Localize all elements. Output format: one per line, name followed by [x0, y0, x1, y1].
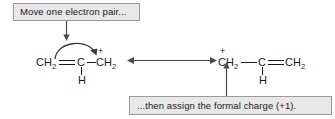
double-bond-lower-right: [268, 64, 284, 65]
chemistry-resonance-figure: Move one electron pair... CH2 C + CH2 H …: [0, 0, 335, 119]
leader-arrow-bottom-up-icon: [222, 62, 231, 97]
callout-top-text: Move one electron pair...: [20, 7, 127, 17]
formal-charge-plus-left: +: [98, 47, 103, 56]
double-bond-lower-left: [59, 64, 75, 65]
double-bond-upper-right: [268, 60, 284, 61]
double-bond-upper-left: [59, 60, 75, 61]
atom-label-terminal-ch2-right: CH2: [285, 57, 305, 70]
atom-label-terminal-ch2-left: CH2: [36, 57, 56, 70]
structure-right: + CH2 C CH2 H: [216, 42, 326, 87]
single-bond-left: [87, 62, 96, 63]
single-bond-right: [241, 62, 257, 63]
atom-label-cation-ch2-left: CH2: [96, 57, 116, 70]
callout-box-assign-formal-charge: ...then assign the formal charge (+1).: [129, 96, 332, 115]
callout-bottom-text: ...then assign the formal charge (+1).: [137, 101, 296, 111]
callout-box-move-electron-pair: Move one electron pair...: [13, 3, 140, 21]
structure-left: CH2 C + CH2 H: [36, 42, 126, 87]
resonance-double-headed-arrow-icon: [127, 54, 217, 67]
atom-label-hydrogen-right: H: [259, 75, 267, 86]
formal-charge-plus-right: +: [220, 47, 225, 56]
atom-label-hydrogen-left: H: [78, 75, 86, 86]
